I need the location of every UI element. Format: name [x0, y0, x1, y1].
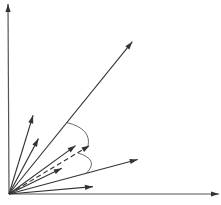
mid-vector-arrowhead-icon [68, 146, 76, 153]
long-vector [9, 42, 132, 194]
steep-vector-2-arrowhead-icon [32, 139, 38, 147]
short-vector-arrowhead-icon [54, 168, 62, 174]
lower-vector-arrowhead-icon [129, 159, 137, 164]
steep-vector-arrowhead-icon [28, 115, 33, 123]
dashed-vector-arrowhead-icon [81, 146, 89, 152]
arc-long-to-dashed [67, 123, 89, 147]
arc-dashed-to-lower [78, 153, 92, 173]
flat-vector-arrowhead-icon [85, 185, 93, 190]
y-axis-arrowhead-icon [5, 4, 10, 12]
x-axis-arrowhead-icon [211, 191, 219, 196]
y-axis [8, 4, 9, 194]
vector-diagram [0, 0, 221, 205]
